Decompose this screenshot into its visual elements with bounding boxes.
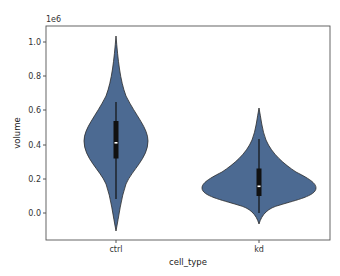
ytick-label: 0.8 bbox=[28, 72, 41, 81]
y-offset-label: 1e6 bbox=[46, 15, 61, 24]
iqr-box-kd bbox=[257, 169, 262, 197]
median-marker-kd bbox=[258, 186, 261, 188]
ytick-label: 0.0 bbox=[28, 209, 41, 218]
xtick-label-ctrl: ctrl bbox=[109, 245, 122, 254]
ytick-label: 0.2 bbox=[28, 175, 41, 184]
violin-ctrl bbox=[84, 36, 148, 231]
violin-chart: 1.0 0.8 0.6 0.4 0.2 0.0 1e6 volume ctrl … bbox=[0, 0, 340, 276]
x-axis: ctrl kd cell_type bbox=[109, 240, 263, 267]
iqr-box-ctrl bbox=[114, 121, 119, 159]
ytick-label: 1.0 bbox=[28, 38, 41, 47]
x-axis-label: cell_type bbox=[169, 257, 207, 267]
y-axis: 1.0 0.8 0.6 0.4 0.2 0.0 1e6 volume bbox=[12, 15, 61, 218]
ytick-label: 0.6 bbox=[28, 106, 41, 115]
violin-kd bbox=[202, 108, 316, 224]
y-axis-label: volume bbox=[12, 117, 22, 149]
xtick-label-kd: kd bbox=[254, 245, 264, 254]
median-marker-ctrl bbox=[115, 142, 118, 144]
ytick-label: 0.4 bbox=[28, 141, 41, 150]
